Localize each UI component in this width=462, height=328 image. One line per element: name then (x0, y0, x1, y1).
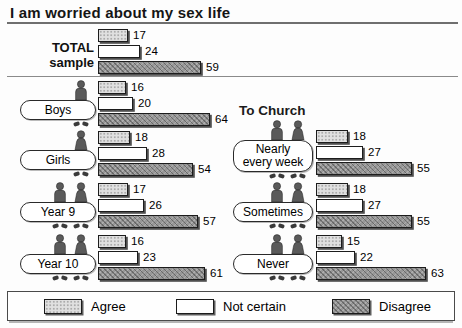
female-figure (289, 234, 307, 254)
feet-row (20, 223, 96, 230)
section-divider (7, 76, 458, 77)
figures-row (233, 182, 313, 202)
figure-feet (268, 223, 286, 230)
figure-feet (72, 171, 90, 178)
bar-not_certain-year-9 (98, 199, 144, 212)
bar-value: 17 (133, 183, 146, 196)
female-figure-icon (72, 234, 90, 254)
figure-feet (289, 223, 307, 230)
bar-disagree-year-9 (98, 215, 198, 228)
bar-value: 22 (360, 251, 373, 264)
figures-row (233, 234, 313, 254)
figure-feet (289, 173, 307, 180)
figure-feet (289, 275, 307, 282)
group-label-year-9: Year 9 (20, 182, 96, 230)
bar-value: 24 (145, 45, 158, 58)
bar-value: 17 (133, 29, 146, 42)
disagree-swatch (332, 299, 370, 314)
bar-value: 20 (138, 97, 151, 110)
bar-agree-total-sample (98, 29, 128, 42)
figures-row (20, 80, 96, 100)
title-underline (7, 22, 458, 24)
group-label-sometimes: Sometimes (233, 182, 313, 230)
male-figure-icon (268, 234, 286, 254)
legend-label-not-certain: Not certain (223, 299, 286, 314)
feet-row (20, 275, 96, 282)
male-figure-icon (268, 182, 286, 202)
group-label-girls: Girls (20, 130, 96, 178)
male-figure-icon (72, 80, 90, 100)
bar-not_certain-girls (98, 147, 147, 160)
label-pill: Boys (20, 100, 96, 120)
feet-icon (289, 223, 307, 230)
female-figure (72, 130, 90, 150)
female-figure (289, 120, 307, 140)
bar-value: 55 (417, 215, 430, 228)
figures-row (233, 120, 313, 140)
feet-icon (289, 275, 307, 282)
chart-title: I am worried about my sex life (10, 4, 230, 21)
male-figure (268, 234, 286, 254)
bar-value: 26 (149, 199, 162, 212)
feet-icon (72, 223, 90, 230)
bar-value: 16 (131, 235, 144, 248)
female-figure-icon (72, 130, 90, 150)
figures-row (20, 130, 96, 150)
figures-row (20, 234, 96, 254)
female-figure (289, 182, 307, 202)
bar-not_certain-nearly-every-week (316, 146, 363, 159)
feet-icon (268, 275, 286, 282)
bar-value: 63 (431, 267, 444, 280)
female-figure (72, 182, 90, 202)
bar-value: 57 (203, 215, 216, 228)
feet-icon (51, 223, 69, 230)
figure-feet (268, 275, 286, 282)
feet-row (233, 173, 313, 180)
male-figure-icon (51, 182, 69, 202)
label-pill: Year 10 (20, 254, 96, 274)
male-figure-icon (51, 234, 69, 254)
legend-item-disagree: Disagree (332, 292, 431, 320)
feet-row (233, 223, 313, 230)
chart-canvas: I am worried about my sex life To Church… (0, 0, 462, 328)
bar-disagree-sometimes (316, 215, 412, 228)
feet-icon (51, 275, 69, 282)
bar-value: 28 (152, 147, 165, 160)
legend-label-agree: Agree (91, 299, 126, 314)
bar-not_certain-never (316, 251, 355, 264)
bar-not_certain-boys (98, 97, 133, 110)
male-figure (72, 80, 90, 100)
bar-disagree-boys (98, 113, 210, 126)
bar-value: 23 (143, 251, 156, 264)
bar-agree-boys (98, 81, 126, 94)
figure-feet (72, 121, 90, 128)
group-label-year-10: Year 10 (20, 234, 96, 282)
feet-icon (72, 171, 90, 178)
label-pill: Girls (20, 150, 96, 170)
bar-disagree-nearly-every-week (316, 162, 412, 175)
legend: Agree Not certain Disagree (7, 291, 455, 321)
group-label-total-sample: TOTAL sample (20, 40, 94, 70)
feet-row (20, 171, 96, 178)
bar-not_certain-year-10 (98, 251, 138, 264)
group-label-nearly-every-week: Nearly every week (233, 120, 313, 180)
bar-value: 18 (353, 130, 366, 143)
feet-icon (268, 223, 286, 230)
bar-value: 61 (210, 267, 223, 280)
group-label-boys: Boys (20, 80, 96, 128)
bar-agree-girls (98, 131, 130, 144)
female-figure-icon (289, 234, 307, 254)
bar-not_certain-sometimes (316, 199, 363, 212)
bar-value: 27 (368, 199, 381, 212)
bar-agree-never (316, 235, 342, 248)
female-figure-icon (289, 120, 307, 140)
bar-value: 18 (135, 131, 148, 144)
bar-value: 16 (131, 81, 144, 94)
label-pill: Never (233, 254, 313, 274)
female-figure (72, 234, 90, 254)
bar-disagree-never (316, 267, 426, 280)
bar-value: 54 (198, 163, 211, 176)
female-figure-icon (72, 182, 90, 202)
feet-icon (72, 121, 90, 128)
figure-feet (51, 275, 69, 282)
